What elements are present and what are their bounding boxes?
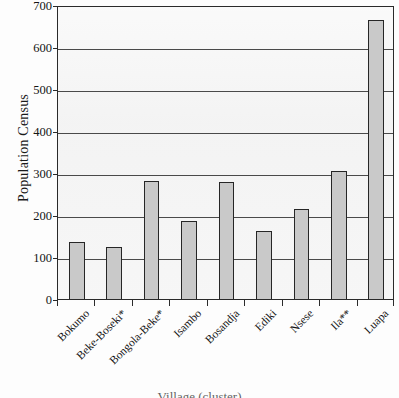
x-category-label-text: Ila**	[328, 307, 353, 332]
x-category-label-text: Ediki	[252, 307, 278, 333]
x-axis-title: Village (cluster)	[0, 389, 399, 398]
bar-chart: Population Census 0100200300400500600700…	[0, 0, 399, 398]
x-category-label-text: Nsese	[288, 307, 316, 335]
x-category-label-text: Isambo	[171, 307, 203, 339]
x-category-label-text: Bokumo	[55, 307, 92, 344]
y-tick-label: 0	[18, 293, 52, 308]
bar	[368, 20, 384, 299]
y-tick-label: 300	[18, 167, 52, 182]
x-tick-mark	[57, 300, 58, 306]
bars-layer	[58, 7, 393, 299]
bar	[219, 182, 235, 299]
x-category-label-text: Luapa	[362, 307, 391, 336]
y-tick-label: 100	[18, 251, 52, 266]
y-tick-label: 400	[18, 125, 52, 140]
x-axis-ticks	[57, 300, 394, 307]
x-category-label-text: Bosandja	[202, 307, 241, 346]
y-tick-label: 200	[18, 209, 52, 224]
bar	[69, 242, 85, 299]
x-axis-category-labels: BokumoBeke-Boseki*Bongola-Beke*IsamboBos…	[0, 307, 399, 377]
y-tick-label: 500	[18, 83, 52, 98]
y-tick-label: 600	[18, 41, 52, 56]
bar	[294, 209, 310, 299]
bar	[331, 171, 347, 299]
y-tick-label: 700	[18, 0, 52, 14]
plot-area	[57, 6, 394, 300]
